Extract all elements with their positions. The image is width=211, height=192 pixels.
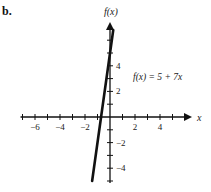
- y-tick-label: −2: [116, 138, 126, 148]
- axes: [21, 24, 191, 183]
- y-axis-label: f(x): [104, 6, 119, 18]
- y-tick-label: 2: [116, 86, 121, 96]
- x-tick-label: −4: [55, 122, 65, 132]
- x-tick-label: −2: [80, 122, 90, 132]
- ticks: [23, 40, 173, 181]
- x-tick-label: 4: [158, 122, 163, 132]
- function-plot: −6−4−22442−2−4 f(x) x f(x) = 5 + 7x: [0, 0, 211, 192]
- equation-label: f(x) = 5 + 7x: [133, 72, 183, 83]
- x-axis-label: x: [196, 112, 202, 123]
- x-tick-label: −6: [30, 122, 40, 132]
- y-tick-label: −4: [116, 163, 126, 173]
- y-tick-label: 4: [116, 61, 121, 71]
- x-tick-label: 2: [133, 122, 138, 132]
